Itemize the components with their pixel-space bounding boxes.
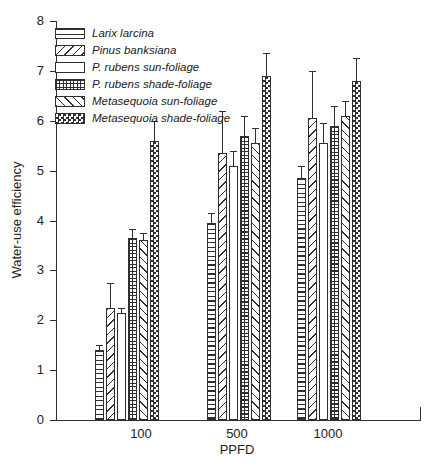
bar [262, 76, 271, 420]
bar [330, 126, 339, 420]
bar [229, 166, 238, 420]
y-tick [50, 171, 56, 172]
legend-label: P. rubens shade-foliage [92, 77, 212, 92]
legend-label: P. rubens sun-foliage [92, 60, 199, 75]
error-bar-cap [331, 106, 338, 107]
y-tick-label: 4 [14, 214, 44, 228]
error-bar [334, 106, 335, 126]
legend-label: Pinus banksiana [92, 43, 176, 58]
error-bar-cap [96, 345, 103, 346]
x-axis-title: PPFD [212, 442, 262, 457]
y-tick [50, 420, 56, 421]
error-bar-cap [118, 308, 125, 309]
error-bar [143, 233, 144, 240]
bar [117, 313, 126, 420]
bar [251, 143, 260, 420]
y-tick-label: 3 [14, 263, 44, 277]
legend-label: Larix larcina [92, 26, 154, 41]
legend-swatch-checkerboard [55, 113, 85, 124]
y-tick-label: 7 [14, 64, 44, 78]
error-bar [110, 283, 111, 308]
legend-item: P. rubens shade-foliage [55, 77, 315, 91]
y-tick-label: 0 [14, 413, 44, 427]
error-bar-cap [353, 58, 360, 59]
error-bar-cap [129, 229, 136, 230]
error-bar [345, 101, 346, 116]
x-axis [56, 420, 421, 421]
y-tick-label: 2 [14, 313, 44, 327]
y-tick [50, 320, 56, 321]
legend-swatch-diagonal-forward [55, 45, 85, 56]
error-bar-cap [107, 283, 114, 284]
legend-item: Pinus banksiana [55, 43, 315, 57]
error-bar-cap [140, 233, 147, 234]
bar [297, 178, 306, 420]
x-axis-end-tick [420, 407, 421, 420]
y-tick [50, 270, 56, 271]
error-bar [132, 229, 133, 237]
bar [240, 136, 249, 420]
legend-swatch-plain [55, 62, 85, 73]
error-bar [211, 213, 212, 223]
bar [150, 141, 159, 420]
x-tick-label: 1000 [303, 426, 353, 441]
y-tick [50, 370, 56, 371]
bar [95, 350, 104, 420]
legend-swatch-horizontal-lines [55, 28, 85, 39]
bar [128, 238, 137, 420]
y-tick-label: 6 [14, 114, 44, 128]
bar [341, 116, 350, 420]
legend-item: Metasequoia shade-foliage [55, 111, 315, 125]
y-tick [50, 221, 56, 222]
legend-label: Metasequoia shade-foliage [92, 111, 230, 126]
error-bar-cap [320, 123, 327, 124]
bar [308, 118, 317, 420]
y-tick-label: 1 [14, 363, 44, 377]
y-tick-label: 8 [14, 14, 44, 28]
bar [106, 308, 115, 420]
x-tick-label: 100 [116, 426, 166, 441]
error-bar [356, 58, 357, 80]
x-tick-label: 500 [212, 426, 262, 441]
legend-item: P. rubens sun-foliage [55, 60, 315, 74]
error-bar-cap [230, 151, 237, 152]
error-bar [301, 166, 302, 178]
bar [218, 153, 227, 420]
y-tick [50, 21, 56, 22]
legend-item: Metasequoia sun-foliage [55, 94, 315, 108]
bar [319, 143, 328, 420]
legend-swatch-diagonal-back [55, 96, 85, 107]
bar-chart-figure: Water-use efficiency 0123456781005001000… [0, 0, 439, 470]
y-tick-label: 5 [14, 164, 44, 178]
bar [207, 223, 216, 420]
error-bar-cap [208, 213, 215, 214]
error-bar-cap [252, 128, 259, 129]
error-bar-cap [342, 101, 349, 102]
bar [352, 81, 361, 420]
legend-item: Larix larcina [55, 26, 315, 40]
bar [139, 240, 148, 420]
legend-label: Metasequoia sun-foliage [92, 94, 217, 109]
legend-swatch-grid [55, 79, 85, 90]
error-bar [233, 151, 234, 166]
error-bar [323, 123, 324, 143]
error-bar [255, 128, 256, 143]
error-bar-cap [298, 166, 305, 167]
